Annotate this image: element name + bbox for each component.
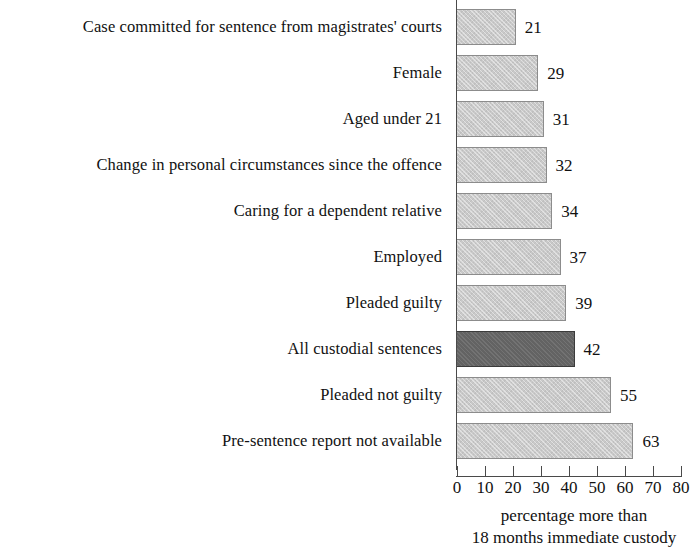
bar-row: Female29: [0, 55, 692, 91]
x-axis-tick-label: 30: [533, 479, 550, 496]
x-axis-tick: [513, 466, 514, 477]
bar: [457, 101, 544, 137]
category-label: All custodial sentences: [0, 331, 450, 367]
category-label: Pleaded guilty: [0, 285, 450, 321]
caption-line-1: percentage more than: [456, 505, 692, 527]
bar-value-label: 31: [553, 111, 570, 128]
bar: [457, 377, 611, 413]
plot-area: Case committed for sentence from magistr…: [0, 0, 692, 478]
bar-cell: 31: [457, 101, 570, 137]
bar-row: Aged under 2131: [0, 101, 692, 137]
bar-row: Case committed for sentence from magistr…: [0, 9, 692, 45]
bar-cell: 32: [457, 147, 573, 183]
bar-row: Pleaded guilty39: [0, 285, 692, 321]
bar: [457, 147, 547, 183]
caption-line-2: 18 months immediate custody: [456, 527, 692, 549]
bar-cell: 34: [457, 193, 578, 229]
x-axis-tick-label: 0: [453, 479, 462, 496]
bar-cell: 39: [457, 285, 592, 321]
bar-value-label: 32: [556, 157, 573, 174]
bar-value-label: 39: [575, 295, 592, 312]
bar-row: Pleaded not guilty55: [0, 377, 692, 413]
bar-cell: 21: [457, 9, 542, 45]
category-label: Caring for a dependent relative: [0, 193, 450, 229]
category-label: Pre-sentence report not available: [0, 423, 450, 459]
bar: [457, 193, 552, 229]
bar-value-label: 37: [570, 249, 587, 266]
x-axis-tick: [653, 466, 654, 477]
bar-cell: 37: [457, 239, 587, 275]
bar-row: Pre-sentence report not available63: [0, 423, 692, 459]
x-axis-tick-label: 10: [477, 479, 494, 496]
bar-value-label: 29: [547, 65, 564, 82]
bar-row: Caring for a dependent relative34: [0, 193, 692, 229]
horizontal-bar-chart: Case committed for sentence from magistr…: [0, 0, 692, 555]
category-label: Aged under 21: [0, 101, 450, 137]
category-label: Employed: [0, 239, 450, 275]
bar-row: Employed37: [0, 239, 692, 275]
x-axis-tick: [457, 466, 458, 477]
x-axis-caption: percentage more than 18 months immediate…: [456, 505, 692, 550]
x-axis-tick-label: 20: [505, 479, 522, 496]
x-axis-tick-label: 50: [589, 479, 606, 496]
category-label: Case committed for sentence from magistr…: [0, 9, 450, 45]
x-axis-tick-label: 70: [645, 479, 662, 496]
bar-value-label: 34: [561, 203, 578, 220]
bar-value-label: 55: [620, 387, 637, 404]
bar-cell: 55: [457, 377, 637, 413]
category-label: Change in personal circumstances since t…: [0, 147, 450, 183]
x-axis-tick: [569, 466, 570, 477]
bar: [457, 239, 561, 275]
x-axis-tick-label: 60: [617, 479, 634, 496]
x-axis-tick-label: 40: [561, 479, 578, 496]
bar-cell: 29: [457, 55, 564, 91]
bar-cell: 42: [457, 331, 601, 367]
bar-value-label: 42: [584, 341, 601, 358]
x-axis-tick-label: 80: [673, 479, 690, 496]
bar-row: Change in personal circumstances since t…: [0, 147, 692, 183]
x-axis-tick: [541, 466, 542, 477]
x-axis-tick: [681, 466, 682, 477]
bar-highlighted: [457, 331, 575, 367]
bar: [457, 423, 633, 459]
bar-value-label: 63: [642, 433, 659, 450]
y-axis-line: [456, 0, 457, 470]
bar: [457, 55, 538, 91]
x-axis-tick: [597, 466, 598, 477]
bar-cell: 63: [457, 423, 659, 459]
x-axis-tick: [625, 466, 626, 477]
category-label: Female: [0, 55, 450, 91]
bar: [457, 285, 566, 321]
category-label: Pleaded not guilty: [0, 377, 450, 413]
bar-row: All custodial sentences42: [0, 331, 692, 367]
bar: [457, 9, 516, 45]
bar-value-label: 21: [525, 19, 542, 36]
x-axis-tick: [485, 466, 486, 477]
